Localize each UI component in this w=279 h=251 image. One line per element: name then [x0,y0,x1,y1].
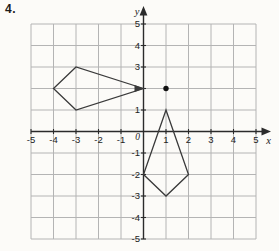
y-tick-label: -3 [132,190,140,201]
rotation-center-point [163,86,168,91]
y-tick-label: -1 [132,147,140,158]
y-tick-label: 3 [135,61,140,72]
y-axis-label: y [134,6,140,17]
y-tick-label: 5 [135,18,140,29]
y-tick-label: -4 [132,212,140,223]
x-axis-label: x [265,135,271,146]
x-tick-label: 3 [208,134,213,145]
x-tick-label: 5 [253,134,258,145]
x-tick-label: 2 [186,134,191,145]
x-tick-label: 4 [231,134,236,145]
y-axis-arrowhead-icon [140,6,148,16]
y-tick-label: -2 [132,169,140,180]
y-tick-label: -5 [132,233,140,244]
x-tick-label: -4 [49,134,57,145]
problem-number: 4. [5,2,16,16]
x-tick-label: 1 [163,134,168,145]
x-tick-label: -1 [117,134,125,145]
textbook-figure: -5-4-3-2-1123455431-1-2-3-4-50yx 4. [0,0,279,251]
y-tick-label: 4 [135,40,140,51]
y-tick-label: 1 [135,104,140,115]
figure-canvas: -5-4-3-2-1123455431-1-2-3-4-50yx [0,0,279,251]
x-tick-label: -5 [27,134,35,145]
x-tick-label: -3 [72,134,80,145]
kite-quadrilateral-left-tip-arrowhead [135,85,144,92]
x-tick-label: -2 [94,134,102,145]
origin-label: 0 [135,132,140,142]
